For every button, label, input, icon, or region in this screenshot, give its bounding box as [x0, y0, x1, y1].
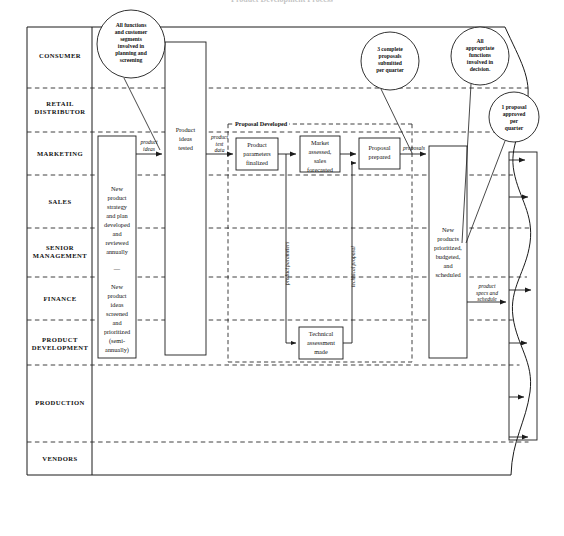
lane-label-finance: FINANCE — [29, 295, 91, 303]
lane-label-sales: SALES — [29, 198, 91, 206]
box-new-product-strategy: New product strategy and plan developed … — [98, 185, 136, 355]
box-proposal-prepared: Proposal prepared — [359, 144, 400, 162]
flow-label-product-ideas: product ideas — [135, 139, 163, 152]
flow-label-technical-proposal: technical proposal — [350, 246, 356, 287]
flow-label-product-specs-and-schedule: product specs and schedule — [467, 283, 507, 303]
diagram-canvas: Product Development Process — [0, 0, 564, 536]
box-market-assessed: Market assessed, sales forecasted — [300, 139, 340, 175]
flow-label-product-parameters: product parameters — [284, 242, 290, 285]
lane-label-senior-management: SENIOR MANAGEMENT — [29, 244, 91, 260]
lane-label-retail-distributor: RETAIL DISTRIBUTOR — [29, 100, 91, 116]
callout-all-appropriate-functions: All appropriate functions involved in de… — [453, 38, 507, 73]
box-product-ideas-tested: Product ideas tested — [165, 126, 206, 153]
callout-three-complete-proposals: 3 complete proposals submitted per quart… — [363, 46, 417, 74]
box-new-products-prioritized: New products prioritized, budgeted, and … — [428, 226, 468, 280]
lane-label-product-development: PRODUCT DEVELOPMENT — [29, 336, 91, 352]
group-label-proposal-developed: Proposal Developed — [233, 120, 289, 127]
flow-label-product-test-data: product test data — [206, 134, 233, 154]
callout-all-functions-planning: All functions and customer segments invo… — [100, 22, 162, 64]
callout-one-proposal-approved: 1 proposal approved per quarter — [489, 104, 539, 132]
box-technical-assessment-made: Technical assessment made — [299, 330, 343, 357]
lane-label-production: PRODUCTION — [29, 399, 91, 407]
lane-label-vendors: VENDORS — [29, 455, 91, 463]
flow-label-proposals: proposals — [400, 145, 428, 152]
lane-label-marketing: MARKETING — [29, 150, 91, 158]
lane-label-consumer: CONSUMER — [29, 52, 91, 60]
box-product-parameters-finalized: Product parameters finalized — [236, 141, 278, 168]
